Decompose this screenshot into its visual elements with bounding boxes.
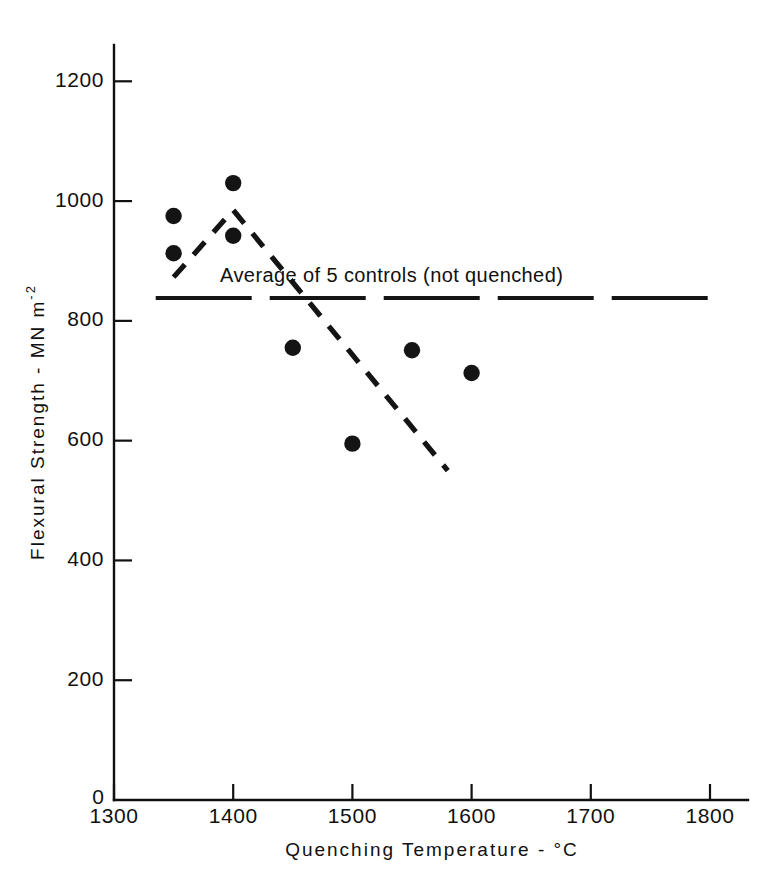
- data-point-marker: [165, 208, 181, 224]
- x-tick-label: 1700: [566, 804, 615, 827]
- data-point-marker: [404, 342, 420, 358]
- data-point-marker: [225, 228, 241, 244]
- x-tick-label: 1300: [89, 804, 138, 827]
- y-tick-label: 1000: [55, 188, 104, 211]
- chart-background: [0, 0, 771, 873]
- y-axis-title-text: Flexural Strength - MN m: [27, 300, 48, 560]
- y-tick-label: 1200: [55, 68, 104, 91]
- y-tick-label: 200: [67, 667, 104, 690]
- y-axis-title-exponent: -2: [23, 284, 38, 300]
- y-tick-label: 600: [67, 427, 104, 450]
- data-point-marker: [225, 175, 241, 191]
- chart-figure: 020040060080010001200 130014001500160017…: [0, 0, 771, 873]
- y-tick-label: 400: [67, 547, 104, 570]
- x-tick-label: 1400: [209, 804, 258, 827]
- flexural-strength-scatter-chart: 020040060080010001200 130014001500160017…: [0, 0, 771, 873]
- control-line-label: Average of 5 controls (not quenched): [220, 264, 563, 286]
- data-point-marker: [344, 435, 360, 451]
- x-axis-title: Quenching Temperature - °C: [285, 839, 579, 860]
- x-tick-label: 1800: [685, 804, 734, 827]
- data-point-marker: [463, 365, 479, 381]
- y-tick-label: 800: [67, 307, 104, 330]
- x-tick-label: 1500: [328, 804, 377, 827]
- data-point-marker: [165, 245, 181, 261]
- x-tick-label: 1600: [447, 804, 496, 827]
- data-point-marker: [285, 340, 301, 356]
- y-axis-title: Flexural Strength - MN m-2: [23, 284, 48, 560]
- y-axis-title-group: Flexural Strength - MN m-2: [23, 284, 48, 560]
